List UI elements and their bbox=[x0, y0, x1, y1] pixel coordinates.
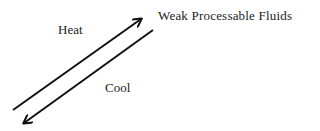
weak-processable-fluids-label: Weak Processable Fluids bbox=[158, 9, 292, 22]
cool-arrow bbox=[24, 30, 153, 123]
heat-label: Heat bbox=[58, 23, 83, 36]
cool-label: Cool bbox=[105, 81, 130, 94]
